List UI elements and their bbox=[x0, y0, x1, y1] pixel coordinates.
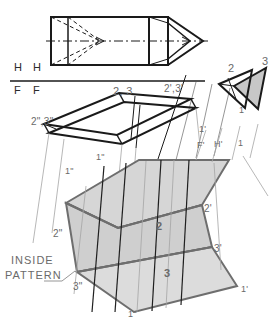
fold-label-f-right: F bbox=[33, 84, 40, 96]
pattern-label-3-prime: 3' bbox=[214, 243, 222, 254]
pattern-caption-line1: INSIDE bbox=[11, 254, 54, 266]
label-one-prime: 1' bbox=[199, 124, 206, 134]
fold-label-h-left: H bbox=[14, 61, 22, 73]
pattern-label-2: 2 bbox=[156, 220, 162, 232]
pattern-label-1-prime: 1' bbox=[241, 284, 248, 294]
label-triangle-3: 3 bbox=[262, 55, 268, 67]
fold-label-f-left: F bbox=[14, 84, 21, 96]
label-one-dblprime-b: 1" bbox=[65, 166, 74, 176]
pencil-prism-top-view bbox=[46, 17, 208, 65]
inside-pattern-development bbox=[66, 160, 237, 312]
label-triangle-2: 2 bbox=[228, 62, 234, 74]
plane-top-view-parallelograms bbox=[44, 93, 196, 148]
label-triangle-1: 1 bbox=[239, 105, 244, 115]
fold-label-h-right: H bbox=[33, 61, 41, 73]
pattern-label-3: 3 bbox=[164, 267, 170, 279]
pattern-label-2-prime: 2' bbox=[204, 203, 212, 214]
technical-drawing-figure: .ink{stroke:#1a1a1a;fill:none;} .ink2{st… bbox=[0, 0, 277, 331]
label-f-prime: F' bbox=[197, 140, 205, 150]
pattern-caption-line2: PATTERN bbox=[5, 269, 62, 281]
pattern-label-1-dbl: 1" bbox=[128, 309, 137, 319]
label-one-plain: 1 bbox=[238, 138, 243, 148]
label-parallelogram-top-right: 2',3' bbox=[164, 83, 183, 94]
label-parallelogram-top-left: 2, 3 bbox=[113, 85, 133, 97]
label-parallelogram-left: 2",3" bbox=[31, 116, 54, 127]
pattern-label-3-dbl: 3" bbox=[73, 281, 83, 292]
label-one-dblprime-a: 1" bbox=[96, 152, 105, 162]
label-h-prime: H' bbox=[214, 139, 223, 149]
pattern-label-2-dbl: 2" bbox=[53, 228, 63, 239]
